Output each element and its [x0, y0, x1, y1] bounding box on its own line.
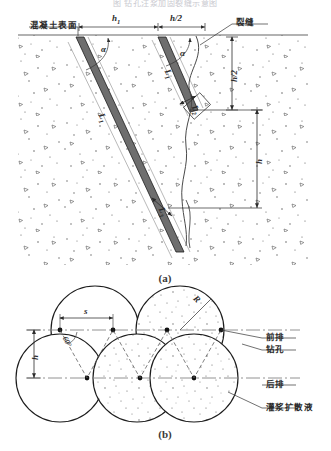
- label-dim-h1: h1: [112, 13, 120, 25]
- label-crack: 裂缝: [236, 15, 255, 27]
- figure-root: 图 钻孔注浆加固裂缝示意图: [0, 0, 331, 451]
- label-dim-h-half-top: h/2: [170, 13, 182, 23]
- drill-hole-leader: [242, 344, 262, 350]
- sub-caption-b: (b): [135, 428, 195, 440]
- label-concrete-surface: 混凝土表面: [30, 18, 77, 30]
- label-depth-h: h: [30, 355, 40, 360]
- hole-front-3: [165, 328, 170, 333]
- panel-b-group: [16, 286, 300, 422]
- front-row-leader: [221, 330, 262, 338]
- label-dim-h-right: h: [254, 159, 264, 164]
- label-back-row: 后排: [266, 377, 285, 389]
- label-angle-alpha-left: α: [101, 44, 106, 54]
- concrete-body: [18, 35, 308, 265]
- label-spacing-s: s: [84, 306, 88, 316]
- label-dim-h1-sub: 1: [117, 18, 120, 25]
- grout-leader: [228, 392, 262, 408]
- label-angle-alpha-right: α: [180, 48, 185, 58]
- label-dim-h-half-right: h/2: [229, 70, 239, 82]
- label-drill-hole: 钻孔: [266, 342, 285, 354]
- panel-a-group: [18, 23, 308, 265]
- label-front-row: 前排: [266, 330, 285, 342]
- sub-caption-a: (a): [135, 272, 195, 284]
- label-grout-diffusion: 灌浆扩散液: [266, 400, 313, 412]
